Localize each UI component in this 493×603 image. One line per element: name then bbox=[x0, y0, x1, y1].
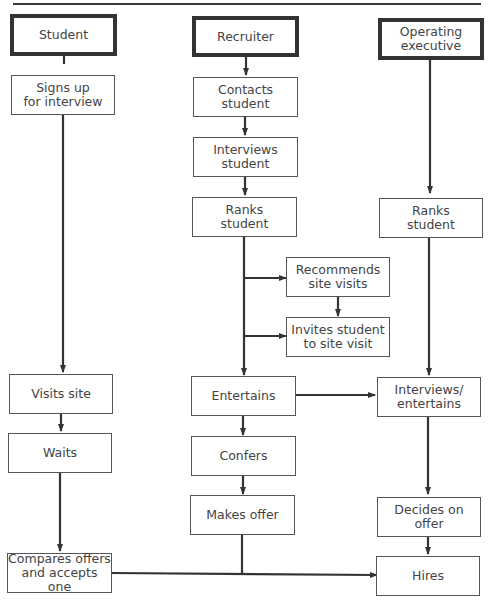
node-interviews: Interviews student bbox=[193, 137, 298, 177]
node-interviews-entertains: Interviews/ entertains bbox=[377, 377, 481, 417]
node-recommends: Recommends site visits bbox=[286, 257, 390, 297]
lane-header-student: Student bbox=[10, 14, 117, 56]
node-waits: Waits bbox=[8, 433, 112, 473]
node-signs-up: Signs up for interview bbox=[11, 75, 115, 115]
lane-header-executive: Operating executive bbox=[378, 18, 484, 60]
node-invites: Invites student to site visit bbox=[286, 317, 390, 357]
node-makes-offer: Makes offer bbox=[190, 495, 295, 535]
edge-compares-hires bbox=[112, 573, 377, 575]
node-visits-site: Visits site bbox=[9, 374, 113, 414]
node-compares: Compares offers and accepts one bbox=[7, 553, 112, 593]
node-entertains: Entertains bbox=[191, 376, 296, 416]
node-ranks-recruiter: Ranks student bbox=[192, 197, 297, 237]
lane-header-recruiter: Recruiter bbox=[192, 16, 299, 57]
node-decides: Decides on offer bbox=[377, 497, 481, 537]
node-hires: Hires bbox=[376, 556, 480, 596]
node-contacts: Contacts student bbox=[193, 77, 298, 117]
node-ranks-executive: Ranks student bbox=[379, 198, 483, 238]
node-confers: Confers bbox=[191, 436, 296, 476]
